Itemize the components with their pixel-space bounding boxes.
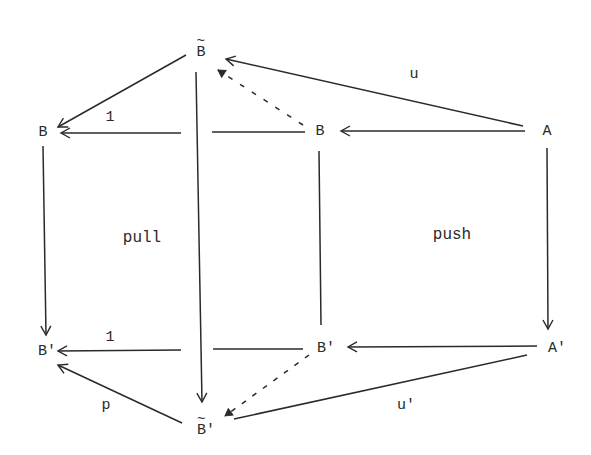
arrow-btilde-to-btilde-prime (196, 72, 202, 402)
region-label-pull: pull (123, 230, 161, 246)
node-b-tilde-prime: B' (197, 423, 215, 438)
edge-label-u-prime: u' (397, 398, 415, 413)
edge-label-1-top: 1 (105, 110, 114, 125)
arrow-btilde-to-b (58, 55, 186, 127)
arrow-p (58, 365, 182, 423)
arrow-bprime-mid-to-left (58, 350, 181, 351)
node-b-tilde-label: B (196, 45, 205, 60)
arrow-b-to-bprime-left (43, 146, 46, 335)
node-a: A (542, 124, 551, 139)
commutative-diagram: B B B A B' B' A' B' u 1 1 p u' pull push (0, 0, 591, 455)
arrow-u-prime (234, 355, 527, 419)
edge-label-u: u (409, 67, 418, 82)
diagram-arrows (0, 0, 591, 455)
arrow-dashed-b-to-btilde (218, 70, 303, 125)
node-b-prime-left: B' (38, 344, 56, 359)
node-b-left: B (38, 125, 47, 140)
region-label-push: push (433, 227, 471, 243)
node-b-prime-mid: B' (317, 341, 335, 356)
node-b-tilde: B (196, 45, 205, 60)
edge-label-p: p (101, 398, 110, 413)
arrow-a-to-aprime (547, 148, 548, 329)
edge-b-to-bprime-mid (319, 151, 321, 325)
node-a-prime: A' (548, 341, 566, 356)
node-b-tilde-prime-label: B' (197, 423, 215, 438)
edge-label-1-bottom: 1 (105, 330, 114, 345)
arrow-dashed-bprime-to-btilde-prime (225, 355, 309, 416)
node-b-mid: B (315, 124, 324, 139)
arrow-u (226, 59, 523, 126)
arrow-aprime-to-bprime (348, 346, 537, 347)
